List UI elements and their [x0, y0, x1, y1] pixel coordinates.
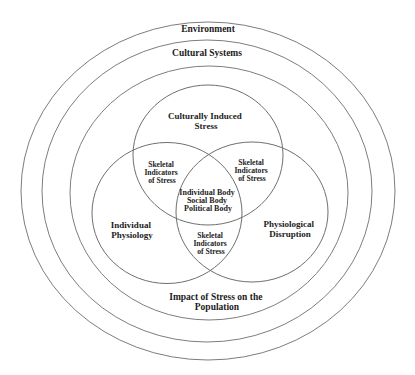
physiological-disruption-line-2: Disruption [269, 229, 311, 239]
individual-physiology-label: Individual Physiology [111, 220, 153, 240]
individual-physiology-line-1: Individual [111, 220, 152, 230]
overlap-top-right-line-3: of Stress [238, 174, 266, 183]
center-line-3: Political Body [184, 204, 232, 213]
individual-physiology-line-2: Physiology [111, 230, 153, 240]
skeletal-indicators-top-right-label: Skeletal Indicators of Stress [234, 158, 269, 183]
skeletal-indicators-bottom-label: Skeletal Indicators of Stress [193, 231, 228, 256]
environment-label: Environment [181, 24, 236, 34]
culturally-induced-stress-label: Culturally Induced Stress [168, 111, 244, 131]
skeletal-indicators-top-left-label: Skeletal Indicators of Stress [144, 160, 179, 185]
overlap-top-left-line-3: of Stress [148, 176, 176, 185]
population-impact-label: Impact of Stress on the Population [169, 292, 265, 312]
cultural-systems-label: Cultural Systems [172, 48, 242, 58]
physiological-disruption-label: Physiological Disruption [264, 219, 317, 239]
culturally-induced-stress-line-1: Culturally Induced [168, 111, 242, 121]
population-impact-line-1: Impact of Stress on the [169, 292, 262, 302]
culturally-induced-stress-line-2: Stress [195, 121, 218, 131]
overlap-bottom-line-3: of Stress [197, 247, 225, 256]
physiological-disruption-line-1: Physiological [264, 219, 315, 229]
center-bodies-label: Individual Body Social Body Political Bo… [179, 188, 236, 213]
stress-model-diagram: Environment Cultural Systems Impact of S… [0, 0, 415, 375]
population-impact-line-2: Population [195, 302, 240, 312]
